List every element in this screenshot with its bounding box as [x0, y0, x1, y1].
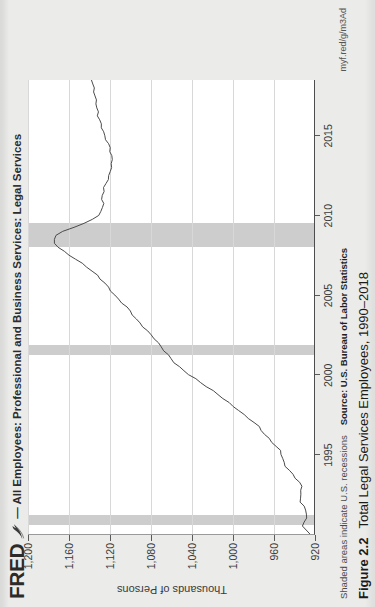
x-axis-tick	[315, 454, 320, 455]
fred-header: FRED — All Employees: Professional and B…	[6, 134, 27, 599]
figure-caption: Figure 2.2 Total Legal Services Employee…	[356, 8, 371, 599]
y-axis-tick	[28, 535, 29, 541]
y-axis-label: 920	[309, 543, 321, 561]
y-axis-tick	[274, 535, 275, 541]
y-axis-label: 1,120	[104, 543, 116, 569]
plot-inner	[28, 80, 314, 534]
x-axis-tick	[315, 374, 320, 375]
fred-permalink[interactable]: myf.red/g/m3Ad	[338, 8, 348, 72]
y-axis-label: 1,040	[186, 543, 198, 569]
y-axis-tick	[151, 535, 152, 541]
y-axis-label: 1,200	[22, 543, 34, 569]
y-axis-tick	[315, 535, 316, 541]
y-axis: 9209601,0001,0401,0801,1201,1601,200	[28, 535, 315, 607]
recession-note: Shaded areas indicate U.S. recessions	[338, 435, 349, 599]
scanned-page: FRED — All Employees: Professional and B…	[0, 0, 375, 607]
source-label: Source: U.S. Bureau of Labor Statistics	[338, 248, 349, 425]
x-axis-label: 1995	[322, 444, 334, 467]
plot-area	[28, 80, 315, 535]
x-axis-tick	[315, 295, 320, 296]
figure-footer: Shaded areas indicate U.S. recessions So…	[338, 8, 354, 599]
x-axis-tick	[315, 215, 320, 216]
y-axis-label: 1,000	[227, 543, 239, 569]
y-axis-tick	[69, 535, 70, 541]
x-axis-label: 2005	[322, 284, 334, 307]
series-layer	[28, 80, 314, 534]
y-axis-label: 1,160	[63, 543, 75, 569]
y-axis-tick	[233, 535, 234, 541]
x-axis-label: 2000	[322, 364, 334, 387]
figure-number: Figure 2.2	[356, 538, 371, 599]
y-axis-tick	[110, 535, 111, 541]
series-line	[54, 80, 310, 534]
x-axis-label: 2010	[322, 204, 334, 227]
x-axis-tick	[315, 135, 320, 136]
chart-title: — All Employees: Professional and Busine…	[12, 134, 24, 519]
figure-caption-text: Total Legal Services Employees, 1990–201…	[356, 272, 371, 529]
x-axis-label: 2015	[322, 124, 334, 147]
y-axis-label: 1,080	[145, 543, 157, 569]
figure-stage: FRED — All Employees: Professional and B…	[0, 0, 375, 607]
swoosh-icon	[11, 523, 25, 540]
y-axis-tick	[192, 535, 193, 541]
y-axis-label: 960	[268, 543, 280, 561]
